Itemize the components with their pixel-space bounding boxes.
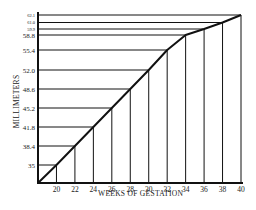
y-tick-label: 58.8 bbox=[23, 32, 36, 40]
x-tick-label: 36 bbox=[200, 185, 208, 194]
y-tick-label: 55.4 bbox=[23, 47, 36, 55]
y-tick-label: 45.2 bbox=[23, 105, 36, 113]
x-tick-label: 40 bbox=[237, 185, 245, 194]
x-tick-label: 38 bbox=[219, 185, 227, 194]
x-tick-label: 20 bbox=[53, 185, 61, 194]
y-tick-label: 41.8 bbox=[23, 124, 36, 132]
x-tick-label: 24 bbox=[90, 185, 98, 194]
y-tick-label: 52.0 bbox=[23, 67, 36, 75]
y-tick-label: 35 bbox=[28, 162, 36, 170]
chart-canvas: 20222426283032343638403538.441.845.248.6… bbox=[0, 0, 256, 210]
data-line bbox=[38, 15, 241, 183]
y-tick-label: 59.9 bbox=[27, 27, 36, 32]
y-tick-label: 48.6 bbox=[23, 86, 36, 94]
x-axis-title: WEEKS OF GESTATION bbox=[98, 189, 183, 198]
y-tick-label: 61.0 bbox=[27, 20, 36, 25]
y-tick-label: 62.1 bbox=[27, 13, 35, 18]
y-tick-label: 38.4 bbox=[23, 143, 36, 151]
x-tick-label: 22 bbox=[71, 185, 79, 194]
y-axis-title: MILLIMETERS bbox=[12, 72, 21, 132]
